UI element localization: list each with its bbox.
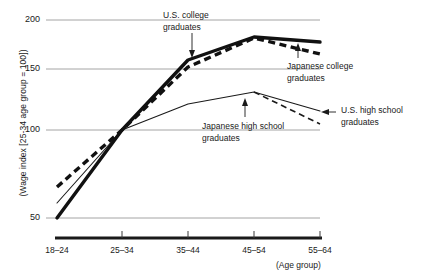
annotation-us-high-school-line1: U.S. high school (341, 105, 403, 117)
annotation-us-college: U.S. college graduates (163, 10, 209, 33)
annotation-arrow-us-high-school (321, 109, 336, 115)
annotation-japanese-high-school: Japanese high school graduates (202, 121, 284, 144)
x-tick-label-45-54: 45–54 (231, 245, 277, 255)
annotation-japanese-high-school-line2: graduates (202, 133, 284, 145)
gridlines (46, 20, 320, 218)
annotation-us-college-line2: graduates (163, 22, 209, 34)
annotation-arrow-japanese-high-school (242, 98, 248, 117)
annotation-arrow-japanese-college (295, 43, 301, 58)
annotation-japanese-college: Japanese college graduates (287, 61, 353, 84)
annotation-arrow-us-college (189, 33, 195, 58)
x-tick-label-35-44: 35–44 (165, 245, 211, 255)
line-us-high-school (57, 92, 320, 203)
arrow-head-up-icon (242, 98, 248, 106)
annotation-japanese-college-line1: Japanese college (287, 61, 353, 73)
annotation-us-high-school: U.S. high school graduates (341, 105, 403, 128)
x-axis (55, 231, 322, 238)
annotation-japanese-college-line2: graduates (287, 73, 353, 85)
annotation-japanese-high-school-line1: Japanese high school (202, 121, 284, 133)
wage-index-line-chart: (Wage index [25-34 age group = 100]) 200… (0, 0, 425, 279)
arrow-head-left-icon (321, 109, 329, 115)
series-us-high-school (57, 92, 320, 203)
annotation-us-college-line1: U.S. college (163, 10, 209, 22)
x-tick-label-55-64: 55–64 (297, 245, 343, 255)
annotation-us-high-school-line2: graduates (341, 117, 403, 129)
x-tick-label-18-24: 18–24 (34, 245, 80, 255)
x-axis-title: (Age group) (276, 260, 321, 270)
x-tick-label-25-34: 25–34 (99, 245, 145, 255)
